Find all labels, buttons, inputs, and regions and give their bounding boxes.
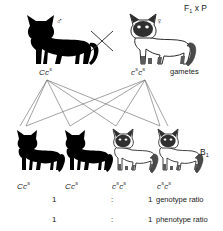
- genetics-cross-diagram: F1 x P ♂: [0, 0, 223, 231]
- offspring-genotype-2: Ccs: [65, 181, 78, 191]
- offspring-3-allele2-superscript: s: [123, 180, 126, 186]
- offspring-cat-2-black: [57, 128, 113, 174]
- genotype-ratio-text: genotype ratio: [156, 196, 204, 204]
- phenotype-ratio-left-number: 1: [52, 216, 56, 224]
- offspring-cat-4-siamese: [151, 128, 205, 174]
- offspring-genotype-3: cscs: [112, 181, 126, 191]
- genotype-ratio-right-number: 1: [148, 196, 152, 204]
- genotype-ratio-left-number: 1: [52, 196, 56, 204]
- generation-label-b1: B1: [200, 148, 209, 157]
- offspring-1-allele2-superscript: s: [27, 180, 30, 186]
- phenotype-ratio-right-number: 1: [148, 216, 152, 224]
- offspring-4-allele2-superscript: s: [168, 180, 171, 186]
- offspring-2-allele2-superscript: s: [75, 180, 78, 186]
- phenotype-ratio-text: phenotype ratio: [156, 216, 208, 224]
- offspring-genotype-4: cscs: [157, 181, 171, 191]
- offspring-genotype-1: Ccs: [17, 181, 30, 191]
- phenotype-ratio-colon: :: [111, 216, 113, 224]
- genotype-ratio-colon: :: [111, 196, 113, 204]
- b1-subscript: 1: [206, 152, 209, 158]
